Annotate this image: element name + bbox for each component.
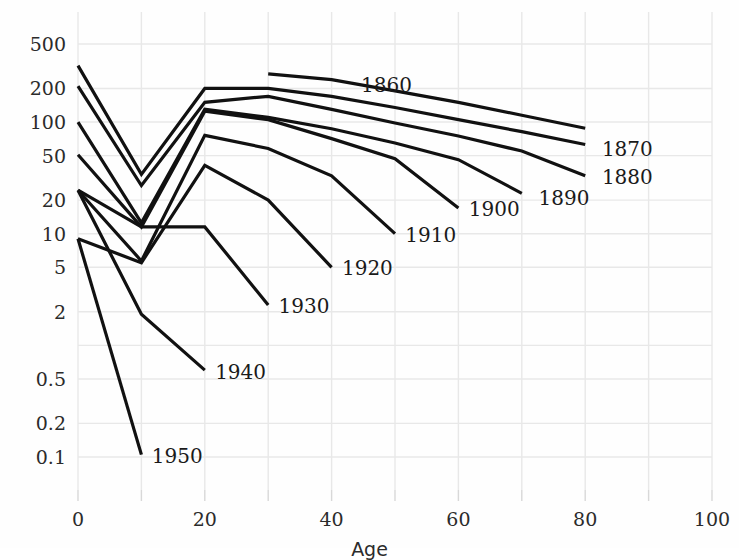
y-tick-label-0_1: 0.1: [0, 446, 66, 468]
x-tick-label-100: 100: [694, 508, 730, 530]
y-tick-label-200: 200: [0, 77, 66, 99]
axis-tick-marks: [78, 490, 712, 501]
series-label-1880: 1880: [602, 165, 653, 189]
y-tick-label-2: 2: [0, 301, 66, 323]
series-label-1870: 1870: [602, 137, 653, 161]
y-tick-label-5: 5: [0, 256, 66, 278]
y-tick-label-10: 10: [0, 223, 66, 245]
series-label-1930: 1930: [279, 294, 330, 318]
y-tick-label-20: 20: [0, 189, 66, 211]
series-label-1860: 1860: [361, 73, 412, 97]
y-tick-label-0_5: 0.5: [0, 368, 66, 390]
x-tick-label-0: 0: [72, 508, 84, 530]
y-tick-label-50: 50: [0, 145, 66, 167]
x-tick-label-80: 80: [573, 508, 597, 530]
x-axis-title: Age: [0, 538, 739, 560]
y-tick-label-500: 500: [0, 33, 66, 55]
series-label-1950: 1950: [152, 444, 203, 468]
x-tick-label-20: 20: [193, 508, 217, 530]
x-tick-label-60: 60: [446, 508, 470, 530]
series-label-1940: 1940: [215, 360, 266, 384]
series-line-1950: [78, 239, 141, 455]
series-line-1860: [268, 74, 585, 128]
series-label-1920: 1920: [342, 256, 393, 280]
y-tick-label-0_2: 0.2: [0, 412, 66, 434]
series-label-1900: 1900: [469, 197, 520, 221]
series-label-1890: 1890: [538, 186, 589, 210]
x-tick-label-40: 40: [320, 508, 344, 530]
y-tick-label-100: 100: [0, 111, 66, 133]
series-label-1910: 1910: [405, 223, 456, 247]
